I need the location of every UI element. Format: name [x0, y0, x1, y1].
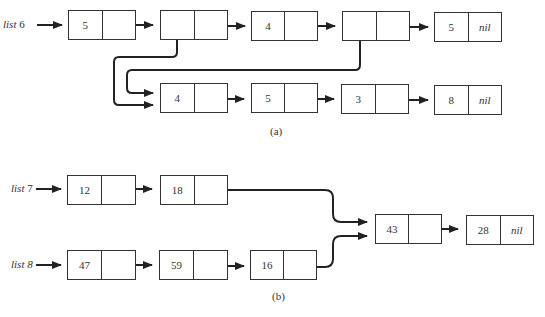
caption-a: (a) [270, 125, 282, 137]
node-next [195, 11, 228, 39]
list7-label: list 7 [11, 182, 33, 194]
node-data: 18 [161, 176, 195, 204]
node-data: 3 [342, 85, 376, 113]
node-next [102, 176, 135, 204]
list7-node-1: 12 [67, 175, 136, 205]
shared-node-1: 43 [375, 214, 442, 244]
list6-label: list 6 [3, 18, 25, 30]
node-data: 5 [435, 13, 469, 41]
list7-node-2: 18 [160, 175, 228, 205]
node-next-nil: nil [469, 13, 502, 41]
node-data: 43 [376, 215, 409, 243]
node-next [409, 215, 441, 243]
node-next-nil: nil [469, 86, 502, 114]
node-next [376, 85, 409, 113]
list8-label: list 8 [11, 258, 33, 270]
list8-node-3: 16 [250, 250, 317, 280]
node-data: 12 [68, 176, 102, 204]
node-next [194, 251, 227, 279]
node-data: 28 [467, 216, 501, 244]
node-next [377, 12, 410, 40]
node-data: 16 [251, 251, 284, 279]
list6-node-5: 5 nil [434, 12, 502, 42]
node-data: 59 [160, 251, 194, 279]
list8-node-1: 47 [67, 250, 136, 280]
node-data: 47 [68, 251, 102, 279]
node-next-nil: nil [501, 216, 534, 244]
node-data [343, 12, 377, 40]
list6-node-1: 5 [68, 10, 136, 40]
list6-node-2 [160, 10, 228, 40]
node-next [102, 251, 135, 279]
node-data: 5 [69, 11, 103, 39]
node-data: 8 [435, 86, 469, 114]
node-next [195, 176, 228, 204]
node-next [103, 11, 136, 39]
node-data: 4 [252, 12, 285, 40]
caption-b: (b) [272, 290, 285, 302]
node-data [161, 11, 195, 39]
sublist-node-4: 8 nil [434, 85, 502, 115]
shared-node-2: 28 nil [466, 215, 534, 245]
node-next [284, 251, 316, 279]
list8-node-2: 59 [159, 250, 228, 280]
node-next [285, 12, 317, 40]
sublist-node-2: 5 [251, 83, 318, 113]
node-data: 4 [161, 84, 195, 112]
node-data: 5 [252, 84, 285, 112]
node-next [285, 84, 317, 112]
node-next [195, 84, 228, 112]
sublist-node-1: 4 [160, 83, 228, 113]
sublist-node-3: 3 [341, 84, 409, 114]
list6-node-3: 4 [251, 11, 318, 41]
list6-node-4 [342, 11, 410, 41]
